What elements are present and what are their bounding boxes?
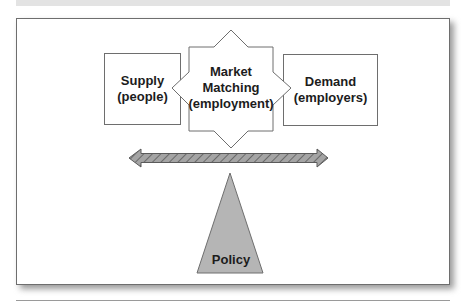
- demand-subtitle: (employers): [283, 90, 378, 106]
- demand-label: Demand (employers): [283, 74, 378, 106]
- supply-title: Supply: [104, 73, 181, 89]
- supply-label: Supply (people): [104, 73, 181, 105]
- market-title-1: Market: [181, 64, 281, 80]
- balance-arrow: [129, 149, 328, 167]
- policy-title: Policy: [200, 252, 262, 268]
- market-title-2: Matching: [181, 80, 281, 96]
- supply-subtitle: (people): [104, 89, 181, 105]
- market-subtitle: (employment): [181, 96, 281, 112]
- policy-label: Policy: [200, 252, 262, 268]
- market-label: Market Matching (employment): [181, 64, 281, 112]
- demand-title: Demand: [283, 74, 378, 90]
